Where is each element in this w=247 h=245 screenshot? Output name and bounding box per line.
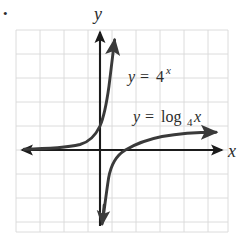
axes — [22, 32, 222, 226]
y-axis-label: y — [92, 4, 102, 24]
log-label-func: log — [161, 108, 181, 126]
exp-label-y: y — [126, 68, 136, 86]
bullet-mark: • — [3, 6, 8, 21]
coordinate-plane-svg: y x • y = 4 x y = log 4 x — [0, 0, 247, 245]
exp-label-exponent: x — [165, 64, 171, 76]
logarithmic-curve-down-arrow — [102, 205, 104, 224]
log-label-subscript: 4 — [187, 116, 193, 128]
log-label-eq: = — [145, 108, 154, 125]
log-label-y: y — [131, 108, 141, 126]
logarithmic-curve-label: y = log 4 x — [131, 108, 201, 128]
exp-label-eq: = — [140, 68, 149, 85]
grid-lines — [16, 30, 228, 232]
graph-figure: y x • y = 4 x y = log 4 x — [0, 0, 247, 245]
x-axis-label: x — [227, 141, 236, 161]
logarithmic-curve — [103, 132, 216, 222]
exp-label-base: 4 — [156, 68, 164, 85]
exponential-curve-label: y = 4 x — [126, 64, 171, 86]
log-label-arg: x — [193, 108, 201, 125]
